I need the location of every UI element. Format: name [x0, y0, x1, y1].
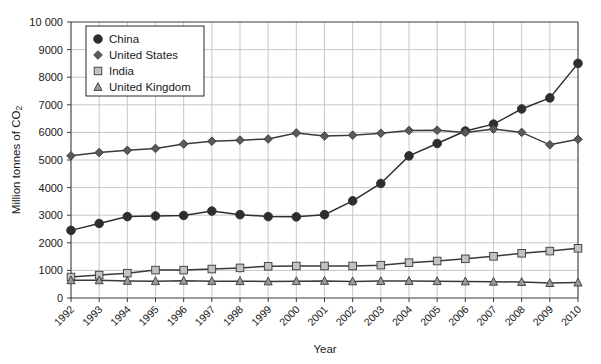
- data-point: [490, 253, 498, 261]
- y-tick-label: 10 000: [29, 16, 63, 28]
- legend-label-india[interactable]: India: [109, 65, 135, 77]
- data-point: [405, 259, 413, 267]
- data-point: [517, 105, 526, 114]
- legend-label-united-states[interactable]: United States: [109, 49, 178, 61]
- chart-canvas: 010002000300040005000600070008000900010 …: [0, 0, 601, 364]
- legend-marker-india[interactable]: [94, 67, 102, 75]
- y-tick-label: 9000: [39, 44, 63, 56]
- y-tick-label: 3000: [39, 209, 63, 221]
- data-point: [264, 212, 273, 221]
- data-point: [123, 212, 132, 221]
- data-point: [264, 262, 272, 270]
- data-point: [348, 197, 357, 206]
- data-point: [462, 255, 470, 263]
- legend-label-united-kingdom[interactable]: United Kingdom: [109, 81, 191, 93]
- data-point: [236, 210, 245, 219]
- x-axis-title: Year: [313, 343, 336, 355]
- y-tick-label: 4000: [39, 182, 63, 194]
- data-point: [321, 262, 329, 270]
- data-point: [292, 213, 301, 222]
- y-tick-label: 7000: [39, 99, 63, 111]
- data-point: [293, 262, 301, 270]
- y-tick-label: 1000: [39, 264, 63, 276]
- y-axis-title: Million tonnes of CO2: [10, 106, 24, 215]
- y-tick-label: 5000: [39, 154, 63, 166]
- data-point: [349, 262, 357, 270]
- data-point: [518, 249, 526, 257]
- y-tick-label: 0: [57, 292, 63, 304]
- data-point: [95, 219, 104, 228]
- data-point: [152, 266, 160, 274]
- data-point: [236, 264, 244, 272]
- data-point: [433, 139, 442, 148]
- data-point: [405, 152, 414, 161]
- data-point: [574, 245, 582, 253]
- data-point: [320, 210, 329, 219]
- y-tick-label: 2000: [39, 237, 63, 249]
- data-point: [546, 94, 555, 103]
- legend-marker-china[interactable]: [94, 35, 103, 44]
- data-point: [179, 211, 188, 220]
- data-point: [546, 247, 554, 255]
- data-point: [574, 59, 583, 68]
- data-point: [208, 265, 216, 273]
- data-point: [67, 226, 76, 235]
- data-point: [208, 207, 217, 216]
- y-tick-label: 6000: [39, 126, 63, 138]
- co2-emissions-line-chart: 010002000300040005000600070008000900010 …: [0, 0, 601, 364]
- data-point: [377, 179, 386, 188]
- y-axis-title-group: Million tonnes of CO2: [10, 106, 24, 215]
- data-point: [151, 212, 160, 221]
- legend[interactable]: ChinaUnited StatesIndiaUnited Kingdom: [86, 26, 204, 96]
- legend-label-china[interactable]: China: [109, 33, 140, 45]
- y-tick-label: 8000: [39, 71, 63, 83]
- data-point: [433, 257, 441, 265]
- data-point: [180, 266, 188, 274]
- data-point: [377, 261, 385, 269]
